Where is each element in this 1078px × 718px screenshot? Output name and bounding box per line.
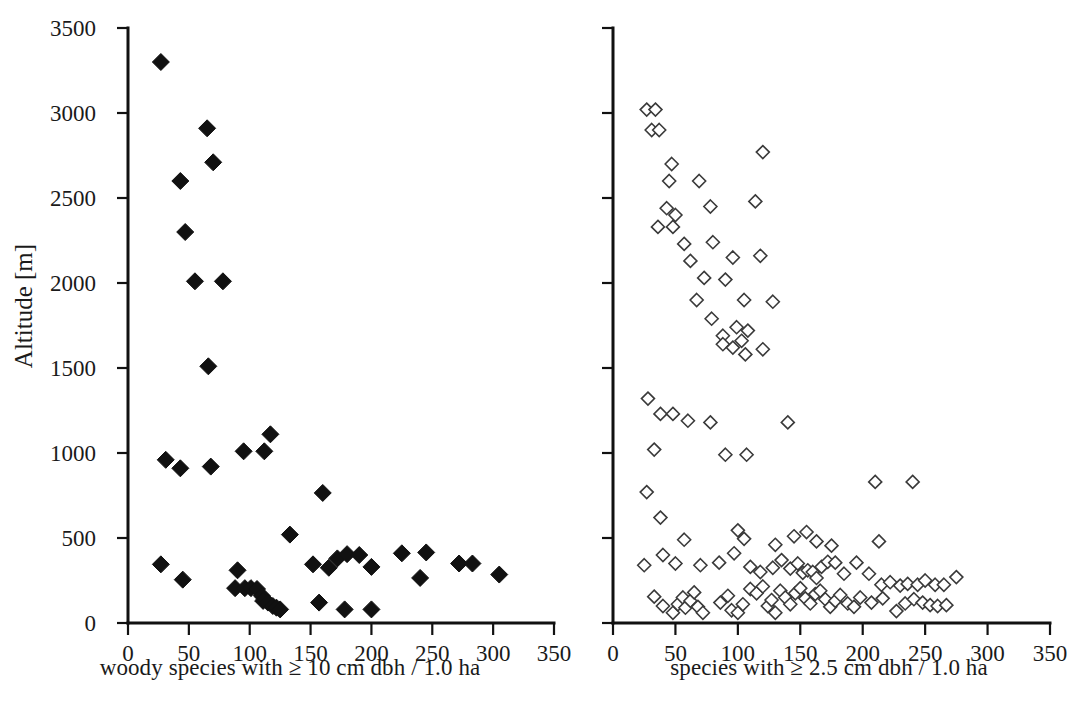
data-point-marker (281, 526, 298, 543)
data-point-marker (638, 559, 651, 572)
data-point-marker (740, 448, 753, 461)
data-point-marker (749, 195, 762, 208)
data-point-marker (363, 601, 380, 618)
data-point-marker (756, 146, 769, 159)
data-point-marker (152, 54, 169, 71)
data-point-marker (641, 392, 654, 405)
data-point-marker (940, 599, 953, 612)
svg-text:3500: 3500 (50, 16, 96, 41)
data-point-marker (693, 175, 706, 188)
data-point-marker (654, 511, 667, 524)
data-point-marker (412, 569, 429, 586)
data-point-marker (665, 158, 678, 171)
data-point-marker (800, 526, 813, 539)
svg-text:2000: 2000 (50, 271, 96, 296)
svg-text:2500: 2500 (50, 186, 96, 211)
data-point-marker (788, 530, 801, 543)
data-point-marker (649, 103, 662, 116)
data-point-marker (704, 416, 717, 429)
data-point-marker (769, 538, 782, 551)
y-axis-title: Altitude [m] (10, 206, 38, 406)
data-point-marker (305, 556, 322, 573)
data-point-marker (719, 448, 732, 461)
data-point-marker (728, 547, 741, 560)
data-point-marker (651, 220, 664, 233)
data-point-marker (199, 120, 216, 137)
data-point-marker (705, 312, 718, 325)
data-point-marker (754, 249, 767, 262)
data-point-marker (950, 571, 963, 584)
svg-text:0: 0 (85, 611, 97, 636)
data-point-marker (186, 273, 203, 290)
data-point-marker (663, 175, 676, 188)
data-point-marker (200, 358, 217, 375)
data-point-marker (648, 443, 661, 456)
data-point-marker (157, 451, 174, 468)
data-point-marker (837, 567, 850, 580)
data-point-marker (850, 556, 863, 569)
data-point-marker (739, 348, 752, 361)
panel-right: 050100150200250300350 species with ≥ 2.5… (580, 0, 1078, 718)
data-point-marker (314, 484, 331, 501)
svg-text:1000: 1000 (50, 441, 96, 466)
data-point-marker (336, 601, 353, 618)
data-point-marker (690, 294, 703, 307)
data-point-marker (418, 544, 435, 561)
scatter-figure: 0500100015002000250030003500050100150200… (0, 0, 1078, 718)
data-point-marker (766, 295, 779, 308)
data-point-marker (235, 443, 252, 460)
svg-text:1500: 1500 (50, 356, 96, 381)
svg-text:3000: 3000 (50, 101, 96, 126)
data-point-marker (681, 414, 694, 427)
data-point-marker (678, 533, 691, 546)
data-point-marker (491, 566, 508, 583)
plot-area-right: 050100150200250300350 (580, 0, 1078, 700)
data-point-marker (872, 535, 885, 548)
data-point-marker (937, 578, 950, 591)
data-point-marker (351, 547, 368, 564)
data-point-marker (825, 539, 838, 552)
data-point-marker (906, 475, 919, 488)
data-point-marker (684, 254, 697, 267)
data-point-marker (704, 200, 717, 213)
data-point-marker (152, 556, 169, 573)
data-point-marker (648, 590, 661, 603)
data-point-marker (862, 567, 875, 580)
data-point-marker (202, 458, 219, 475)
data-point-marker (654, 407, 667, 420)
data-point-marker (205, 154, 222, 171)
data-point-marker (869, 475, 882, 488)
data-points (152, 54, 507, 618)
data-point-marker (726, 251, 739, 264)
data-point-marker (393, 545, 410, 562)
data-point-marker (656, 600, 669, 613)
data-point-marker (640, 486, 653, 499)
data-point-marker (174, 571, 191, 588)
data-point-marker (719, 273, 732, 286)
data-point-marker (656, 549, 669, 562)
data-point-marker (669, 557, 682, 570)
plot-area-left: 0500100015002000250030003500050100150200… (0, 0, 580, 700)
data-point-marker (678, 237, 691, 250)
data-point-marker (363, 558, 380, 575)
data-point-marker (810, 535, 823, 548)
data-point-marker (706, 236, 719, 249)
x-axis-title-right: species with ≥ 2.5 cm dbh / 1.0 ha (580, 655, 1078, 681)
data-point-marker (262, 426, 279, 443)
data-point-marker (214, 273, 231, 290)
data-point-marker (464, 555, 481, 572)
data-point-marker (730, 321, 743, 334)
data-point-marker (666, 407, 679, 420)
data-point-marker (694, 559, 707, 572)
svg-text:500: 500 (62, 526, 97, 551)
data-point-marker (229, 562, 246, 579)
data-point-marker (713, 556, 726, 569)
data-point-marker (698, 271, 711, 284)
data-point-marker (781, 416, 794, 429)
data-point-marker (738, 294, 751, 307)
data-points (638, 103, 963, 619)
data-point-marker (666, 220, 679, 233)
data-point-marker (311, 594, 328, 611)
data-point-marker (177, 224, 194, 241)
data-point-marker (172, 460, 189, 477)
